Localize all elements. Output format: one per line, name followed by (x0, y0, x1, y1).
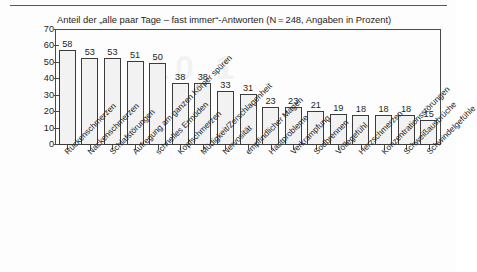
bar (59, 50, 76, 145)
y-tick-label: 40 (34, 74, 54, 83)
y-tick-label: 30 (34, 90, 54, 99)
bar-value-label: 50 (144, 52, 172, 62)
y-tick-label: 70 (34, 25, 54, 34)
y-tick-label: 0 (34, 140, 54, 149)
x-axis-labels: RückenschmerzenNackenschmerzenSchlafstör… (0, 150, 456, 270)
y-tick-label: 60 (34, 41, 54, 50)
y-tick-label: 10 (34, 123, 54, 132)
y-axis: 010203040506070 (28, 29, 54, 145)
y-tick-label: 20 (34, 107, 54, 116)
chart-title: Anteil der „alle paar Tage – fast immer“… (57, 14, 391, 26)
y-tick-label: 50 (34, 57, 54, 66)
top-divider-rule (10, 5, 447, 6)
